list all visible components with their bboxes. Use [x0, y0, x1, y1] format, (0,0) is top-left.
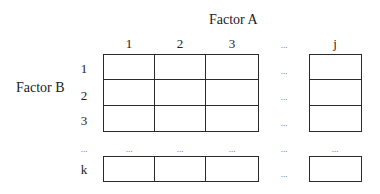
ellipsis-row-c1: ...	[117, 144, 141, 154]
row-label-3: 3	[74, 114, 94, 128]
grid-cell-r2-c2	[154, 79, 207, 107]
column-label-3: 3	[222, 37, 242, 51]
grid-cell-r2-c1	[103, 79, 156, 107]
column-label-2: 2	[170, 37, 190, 51]
grid-cell-r2-cj	[309, 79, 362, 107]
ellipsis-row-cj: ...	[323, 144, 347, 154]
column-label-ellipsis: ...	[272, 40, 296, 50]
row-label-k: k	[74, 163, 94, 177]
grid-cell-r2-c3	[205, 79, 259, 107]
row-label-1: 1	[74, 62, 94, 76]
grid-cell-rk-c1	[103, 156, 156, 182]
ellipsis-r3: ...	[272, 118, 296, 128]
grid-cell-r3-c3	[205, 105, 259, 132]
grid-cell-rk-c3	[205, 156, 259, 182]
ellipsis-row-c2: ...	[168, 144, 192, 154]
ellipsis-row-c3: ...	[220, 144, 244, 154]
row-label-ellipsis: ...	[72, 144, 96, 154]
grid-cell-r3-cj	[309, 105, 362, 132]
grid-cell-r3-c2	[154, 105, 207, 132]
ellipsis-row-mid: ...	[272, 144, 296, 154]
grid-cell-rk-c2	[154, 156, 207, 182]
grid-cell-r1-c3	[205, 54, 259, 81]
grid-cell-r1-c2	[154, 54, 207, 81]
column-label-j: j	[325, 37, 345, 51]
ellipsis-rk: ...	[272, 169, 296, 179]
ellipsis-r1: ...	[272, 66, 296, 76]
row-label-2: 2	[74, 89, 94, 103]
grid-cell-r3-c1	[103, 105, 156, 132]
grid-cell-r1-cj	[309, 54, 362, 81]
factor-b-label: Factor B	[16, 80, 65, 96]
factor-a-label: Factor A	[209, 12, 258, 28]
grid-cell-r1-c1	[103, 54, 156, 81]
ellipsis-r2: ...	[272, 92, 296, 102]
column-label-1: 1	[119, 37, 139, 51]
grid-cell-rk-cj	[309, 156, 362, 182]
